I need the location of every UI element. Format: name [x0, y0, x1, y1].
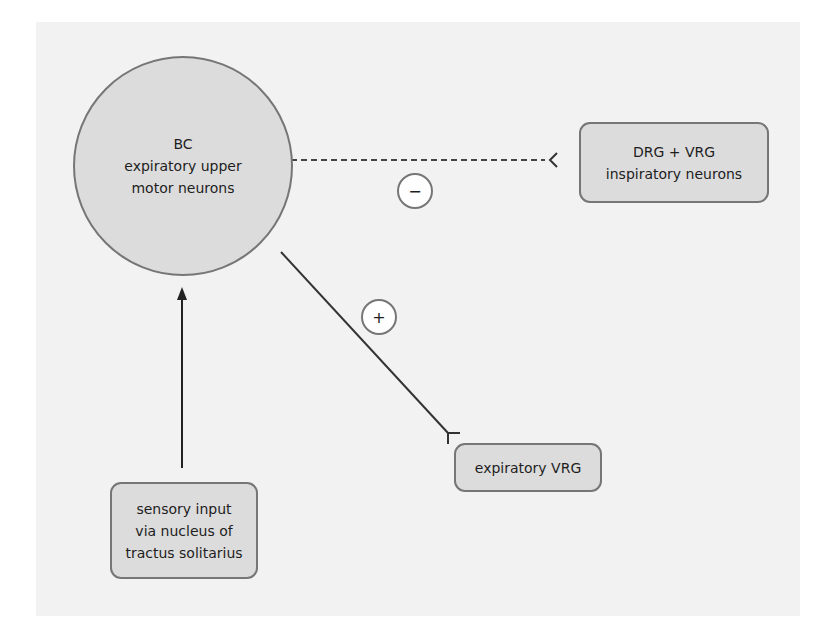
- excitatory-line: [281, 252, 448, 433]
- bc-expiratory-upper-motor-neurons-node: BC expiratory upper motor neurons: [73, 56, 293, 276]
- node-label-line: expiratory upper: [124, 155, 241, 177]
- minus-sign-icon: −: [397, 173, 433, 209]
- node-label-line: tractus solitarius: [125, 542, 242, 564]
- sign-label: +: [372, 308, 385, 327]
- arrow-up-icon: [177, 287, 187, 300]
- plus-sign-icon: +: [361, 299, 397, 335]
- node-label-line: expiratory VRG: [475, 457, 581, 479]
- drg-vrg-inspiratory-neurons-node: DRG + VRG inspiratory neurons: [579, 122, 769, 203]
- node-label-line: sensory input: [136, 498, 231, 520]
- node-label-line: via nucleus of: [135, 520, 232, 542]
- sensory-input-node: sensory input via nucleus of tractus sol…: [110, 482, 258, 579]
- node-label-line: inspiratory neurons: [606, 163, 742, 185]
- node-label-line: DRG + VRG: [633, 141, 715, 163]
- node-label-line: motor neurons: [131, 177, 234, 199]
- sign-label: −: [408, 182, 421, 201]
- chevron-left-icon: [550, 153, 557, 167]
- synapse-terminal-icon: [448, 433, 460, 444]
- expiratory-vrg-node: expiratory VRG: [454, 443, 602, 492]
- node-label-line: BC: [173, 133, 192, 155]
